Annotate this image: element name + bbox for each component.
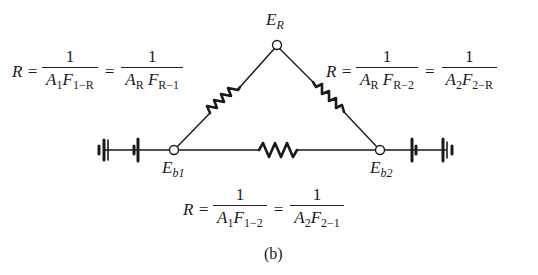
fraction: 1 A2F2−R xyxy=(442,48,498,95)
denominator: A1F1−2 xyxy=(213,206,267,233)
resistor-left-icon xyxy=(207,87,240,113)
numerator: 1 xyxy=(379,48,396,67)
fraction: 1 A1F1−R xyxy=(42,48,98,95)
fraction: 1 AR FR−2 xyxy=(356,48,418,95)
area-symbol: A xyxy=(217,208,227,227)
node-label-eb2-sub: b2 xyxy=(380,166,392,180)
fraction: 1 A2F2−1 xyxy=(290,186,344,233)
view-factor-subscript: 1−R xyxy=(73,78,94,92)
equation-lhs: R = xyxy=(326,62,352,82)
wire-left-upper xyxy=(240,49,274,87)
view-factor-symbol: F xyxy=(148,70,158,89)
numerator: 1 xyxy=(144,48,161,67)
view-factor-symbol: F xyxy=(234,208,244,227)
equation-lhs: R = xyxy=(12,62,38,82)
node-eb1-icon xyxy=(170,146,179,155)
node-label-er: ER xyxy=(266,10,284,33)
view-factor-symbol: F xyxy=(462,70,472,89)
area-subscript: R xyxy=(136,78,144,92)
view-factor-symbol: F xyxy=(311,208,321,227)
denominator: A1F1−R xyxy=(42,68,98,95)
view-factor-subscript: 2−R xyxy=(472,78,493,92)
denominator: AR FR−2 xyxy=(356,68,418,95)
view-factor-symbol: F xyxy=(383,70,393,89)
wire-right-upper xyxy=(280,49,313,82)
node-label-eb2: Eb2 xyxy=(370,158,392,181)
area-symbol: A xyxy=(294,208,304,227)
view-factor-subscript: 2−1 xyxy=(321,216,340,230)
equation-right: R = 1 AR FR−2 = 1 A2F2−R xyxy=(326,48,497,95)
resistor-bottom-icon xyxy=(259,143,297,157)
denominator: A2F2−R xyxy=(442,68,498,95)
numerator: 1 xyxy=(232,186,249,205)
area-symbol: A xyxy=(125,70,135,89)
node-er-icon xyxy=(273,41,282,50)
node-label-eb1-symbol: E xyxy=(162,158,172,177)
numerator: 1 xyxy=(62,48,79,67)
equals-sign: = xyxy=(105,62,115,82)
denominator: A2F2−1 xyxy=(290,206,344,233)
battery-right-icon xyxy=(384,139,452,161)
equation-left: R = 1 A1F1−R = 1 AR FR−1 xyxy=(12,48,183,95)
numerator: 1 xyxy=(461,48,478,67)
equation-bottom: R = 1 A1F1−2 = 1 A2F2−1 xyxy=(183,186,344,233)
equals-sign: = xyxy=(274,200,284,220)
area-symbol: A xyxy=(360,70,370,89)
view-factor-subscript: R−2 xyxy=(393,78,414,92)
node-label-eb1: Eb1 xyxy=(162,158,184,181)
area-subscript: R xyxy=(371,78,379,92)
figure-caption: (b) xyxy=(264,245,283,263)
node-label-er-sub: R xyxy=(276,18,283,32)
node-eb2-icon xyxy=(376,146,385,155)
area-symbol: A xyxy=(46,70,56,89)
node-label-eb1-sub: b1 xyxy=(172,166,184,180)
wire-right-lower xyxy=(344,112,377,147)
view-factor-subscript: 1−2 xyxy=(244,216,263,230)
fraction: 1 A1F1−2 xyxy=(213,186,267,233)
node-label-er-symbol: E xyxy=(266,10,276,29)
numerator: 1 xyxy=(309,186,326,205)
equation-lhs: R = xyxy=(183,200,209,220)
area-symbol: A xyxy=(446,70,456,89)
node-label-eb2-symbol: E xyxy=(370,158,380,177)
view-factor-symbol: F xyxy=(63,70,73,89)
fraction: 1 AR FR−1 xyxy=(121,48,183,95)
battery-left-icon xyxy=(99,139,170,161)
view-factor-subscript: R−1 xyxy=(158,78,179,92)
radiation-network-circuit xyxy=(0,0,538,275)
wire-left-lower xyxy=(177,113,210,147)
denominator: AR FR−1 xyxy=(121,68,183,95)
equals-sign: = xyxy=(425,62,435,82)
